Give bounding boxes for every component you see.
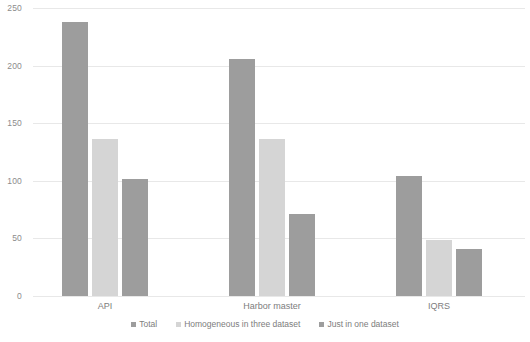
- y-axis-tick-label: 200: [0, 61, 22, 70]
- bar[interactable]: [229, 59, 255, 296]
- legend-item[interactable]: Total: [131, 320, 157, 329]
- bar-chart: 250200150100500 Total Homogeneous in thr…: [0, 0, 530, 342]
- legend-item[interactable]: Just in one dataset: [319, 320, 398, 329]
- y-gridline: [33, 8, 525, 9]
- x-axis-category-label: Harbor master: [243, 302, 301, 311]
- bar[interactable]: [396, 176, 422, 296]
- y-axis-tick-label: 150: [0, 119, 22, 128]
- x-axis-category-label: IQRS: [428, 302, 450, 311]
- legend-swatch-total: [131, 322, 136, 327]
- y-gridline: [33, 123, 525, 124]
- legend-label-homogeneous: Homogeneous in three dataset: [184, 320, 300, 329]
- bar[interactable]: [289, 214, 315, 296]
- y-axis-tick-label: 50: [0, 234, 22, 243]
- y-gridline: [33, 296, 525, 297]
- y-axis-tick-label: 250: [0, 4, 22, 13]
- bar[interactable]: [62, 22, 88, 296]
- legend-item[interactable]: Homogeneous in three dataset: [176, 320, 300, 329]
- x-axis-category-label: API: [98, 302, 113, 311]
- bar[interactable]: [456, 249, 482, 296]
- legend-swatch-just-one: [319, 322, 324, 327]
- plot-area: 250200150100500: [33, 8, 525, 302]
- bar[interactable]: [92, 139, 118, 296]
- legend-swatch-homogeneous: [176, 322, 181, 327]
- bar[interactable]: [122, 179, 148, 297]
- legend-label-total: Total: [139, 320, 157, 329]
- bar[interactable]: [259, 139, 285, 296]
- bar[interactable]: [426, 240, 452, 296]
- chart-legend: Total Homogeneous in three dataset Just …: [0, 320, 530, 329]
- y-gridline: [33, 66, 525, 67]
- y-axis-tick-label: 0: [0, 292, 22, 301]
- y-axis-tick-label: 100: [0, 177, 22, 186]
- legend-label-just-one: Just in one dataset: [327, 320, 398, 329]
